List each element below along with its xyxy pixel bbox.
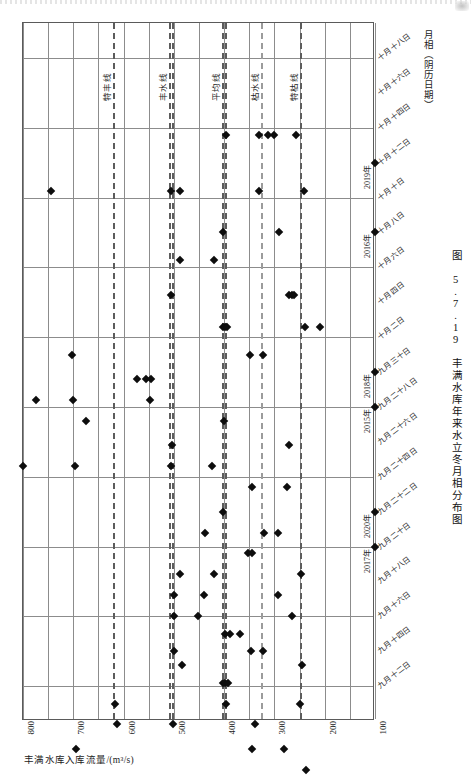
date-tick-label: 九月三十日 — [375, 344, 413, 377]
data-point — [176, 186, 184, 194]
flow-tick-label: 300 — [277, 721, 287, 735]
date-gridline — [23, 686, 373, 687]
data-point — [275, 228, 283, 236]
data-point — [296, 570, 304, 578]
data-point — [145, 396, 153, 404]
date-gridline — [23, 407, 373, 408]
date-tick-label: 九月十八日 — [375, 553, 413, 586]
data-point — [226, 630, 234, 638]
year-marker-label: 2018年 — [361, 374, 372, 398]
data-point — [178, 661, 186, 669]
flow-axis-ticks: 800700600500400300200100 — [22, 721, 374, 755]
reference-line-label: 枯水线 — [251, 73, 260, 101]
scan-top-edge — [0, 0, 471, 4]
reference-line-label: 平均线 — [212, 73, 221, 101]
data-point — [69, 396, 77, 404]
flow-axis-title: 丰满水库入库流量/(m³/s) — [24, 752, 324, 766]
data-point — [283, 483, 291, 491]
date-tick-label: 九月二十四日 — [375, 443, 420, 481]
date-tick-label: 十月十日 — [375, 174, 407, 202]
data-point — [291, 130, 299, 138]
data-point — [82, 417, 90, 425]
data-point — [247, 647, 255, 655]
data-point — [301, 766, 309, 774]
date-tick-label: 十月十六日 — [375, 64, 413, 97]
data-point — [288, 612, 296, 620]
date-tick-label: 九月二十六日 — [375, 408, 420, 446]
date-gridline — [23, 547, 373, 548]
flow-tick-label: 700 — [76, 721, 86, 735]
year-marker-label: 2019年 — [361, 165, 372, 189]
data-point — [200, 591, 208, 599]
data-point — [274, 528, 282, 536]
data-point — [315, 322, 323, 330]
data-point — [71, 462, 79, 470]
reference-line-label: 特丰线 — [103, 73, 112, 101]
year-marker-label: 2016年 — [361, 234, 372, 258]
date-tick-label: 十月十四日 — [375, 99, 413, 132]
flow-tick-label: 100 — [378, 721, 388, 735]
data-point — [210, 570, 218, 578]
date-gridline — [23, 477, 373, 478]
date-tick-label: 九月十四日 — [375, 623, 413, 656]
date-axis-ticks: 十月十八日十月十六日十月十四日十月十二日十月十日十月八日十月六日十月四日十月二日… — [376, 22, 448, 722]
data-point — [201, 528, 209, 536]
date-tick-label: 十月四日 — [375, 279, 407, 307]
year-marker-label: 2020年 — [361, 514, 372, 538]
figure-caption: 图 5.7.19 丰满水库年来水立冬月相分布图 — [446, 250, 462, 526]
flow-tick-label: 500 — [177, 721, 187, 735]
data-point — [19, 462, 27, 470]
flow-tick-label: 800 — [26, 721, 36, 735]
date-tick-label: 十月六日 — [375, 244, 407, 272]
flow-tick-label: 200 — [328, 721, 338, 735]
year-marker-label: 2015年 — [361, 409, 372, 433]
data-point — [68, 350, 76, 358]
data-point — [270, 130, 278, 138]
date-tick-label: 九月二十八日 — [375, 374, 420, 412]
data-point — [208, 462, 216, 470]
date-gridline — [23, 267, 373, 268]
flow-tick-label: 400 — [227, 721, 237, 735]
scan-corner-artifact — [455, 1, 469, 11]
date-tick-label: 十月十二日 — [375, 134, 413, 167]
date-tick-label: 十月十八日 — [375, 29, 413, 62]
date-gridline — [23, 58, 373, 59]
data-point — [236, 630, 244, 638]
data-point — [246, 350, 254, 358]
date-tick-label: 九月十六日 — [375, 588, 413, 621]
reference-line-label: 特枯线 — [290, 73, 299, 101]
date-tick-label: 九月二十二日 — [375, 478, 420, 516]
data-point — [31, 396, 39, 404]
data-point — [259, 350, 267, 358]
date-tick-label: 九月二十日 — [375, 518, 413, 551]
data-point — [176, 256, 184, 264]
data-point — [133, 375, 141, 383]
date-gridline — [23, 128, 373, 129]
plot-area: 特丰线丰水线平均线枯水线特枯线 2019年2016年2018年2015年2020… — [22, 22, 374, 720]
data-point — [194, 612, 202, 620]
data-point — [260, 528, 268, 536]
data-point — [295, 699, 303, 707]
year-marker-label: 2017年 — [361, 549, 372, 573]
date-axis-title: 月相（阴历日期） — [415, 30, 433, 110]
date-tick-label: 九月十二日 — [375, 658, 413, 691]
date-tick-label: 十月八日 — [375, 209, 407, 237]
data-point — [210, 256, 218, 264]
date-gridline — [23, 198, 373, 199]
data-point — [274, 591, 282, 599]
date-gridline — [23, 337, 373, 338]
reference-line-label: 丰水线 — [159, 73, 168, 101]
date-tick-label: 十月二日 — [375, 314, 407, 342]
data-point — [176, 570, 184, 578]
data-point — [284, 441, 292, 449]
flow-tick-label: 600 — [127, 721, 137, 735]
